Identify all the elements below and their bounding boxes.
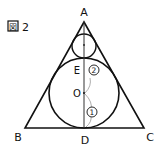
caption-kanji: 図 [9, 23, 17, 32]
geometry-figure: 図 2 2 1 A B C D E O [0, 0, 163, 151]
brace-2 [85, 78, 90, 93]
diagram-canvas: 図 2 2 1 A B C D E O [0, 0, 163, 151]
center-o [83, 92, 85, 94]
label-e: E [74, 65, 80, 76]
caption-number: 2 [22, 21, 29, 34]
segment-1-label: 1 [90, 108, 95, 117]
label-d: D [81, 134, 89, 147]
label-o: O [73, 88, 81, 99]
segment-2-label: 2 [92, 66, 97, 75]
label-a: A [80, 6, 88, 19]
label-c: C [146, 131, 154, 144]
label-b: B [14, 131, 22, 144]
